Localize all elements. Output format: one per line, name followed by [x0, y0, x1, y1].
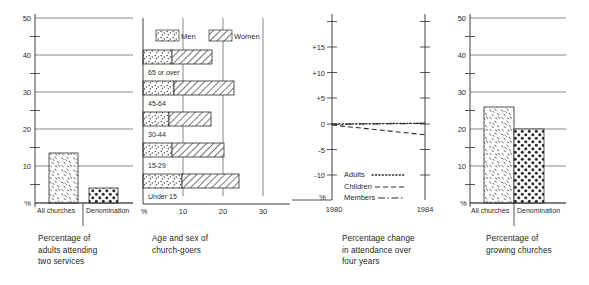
- panel-caption: Age and sex of church-goers: [152, 233, 262, 256]
- panel-caption: Percentage of growing churches: [486, 233, 589, 256]
- panel-caption: Percentage of adults attending two servi…: [38, 233, 138, 268]
- panel-growing-churches: 50 40 30 20 10 % All churches Denominati…: [440, 0, 589, 285]
- panel-adults-two-services: 50 40 30 20 10 % All churches Denominati…: [0, 0, 140, 285]
- panel-age-sex-church-goers: Men Women 65 or over 45-64 30-44: [130, 0, 295, 285]
- panel-percentage-change-attendance: +15 +10 +5 0 -5 -10 % Adults Children: [292, 0, 442, 285]
- four-panel-chart-figure: 50 40 30 20 10 % All churches Denominati…: [0, 0, 589, 285]
